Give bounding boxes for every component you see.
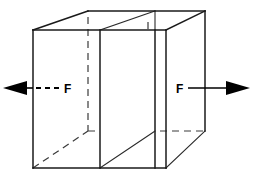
force-label-right: F (176, 82, 183, 96)
cube-right-face (166, 11, 205, 168)
cut-plane-fill (100, 30, 155, 168)
arrow-head-right-icon (226, 81, 250, 95)
arrow-head-left-icon (3, 81, 27, 95)
figure-container: F F (0, 0, 253, 179)
force-label-left: F (64, 82, 71, 96)
cube-force-diagram: F F (0, 0, 253, 179)
